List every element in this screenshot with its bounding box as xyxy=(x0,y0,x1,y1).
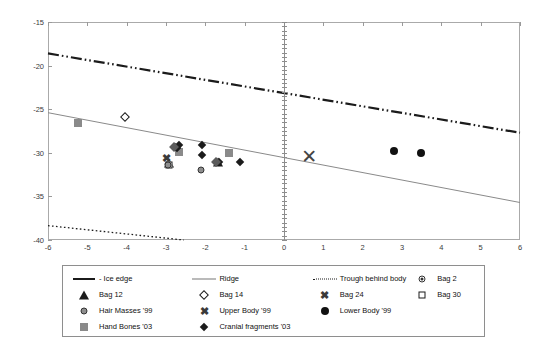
zero-axis-tick xyxy=(282,201,287,202)
legend-ice-edge-icon xyxy=(69,272,99,286)
legend-row: Hand Bones '03Cranial fragments '03 xyxy=(69,319,478,335)
x-tick-mark xyxy=(520,22,521,26)
zero-axis-tick xyxy=(282,131,287,132)
zero-axis-tick xyxy=(282,22,287,23)
zero-axis-tick xyxy=(282,26,287,27)
x-tick-label: 2 xyxy=(361,243,365,252)
zero-axis-tick xyxy=(282,223,287,224)
x-tick-mark xyxy=(48,22,49,26)
zero-axis-tick xyxy=(282,105,287,106)
legend-item[interactable]: Bag 30 xyxy=(407,287,478,303)
legend-item[interactable]: Bag 2 xyxy=(407,271,478,287)
data-point-marker xyxy=(164,162,171,169)
legend-marker-icon xyxy=(69,304,99,318)
legend-trough-icon xyxy=(310,272,340,286)
y-tick-mark xyxy=(48,240,52,241)
legend-item-empty xyxy=(407,303,478,319)
legend-label: Bag 24 xyxy=(340,290,364,300)
zero-axis-tick xyxy=(282,192,287,193)
zero-axis-tick xyxy=(282,140,287,141)
zero-axis-tick xyxy=(282,48,287,49)
x-tick-mark xyxy=(166,22,167,26)
zero-axis-tick xyxy=(282,127,287,128)
x-tick-label: 4 xyxy=(439,243,443,252)
zero-axis-tick xyxy=(282,44,287,45)
legend-item[interactable]: Lower Body '99 xyxy=(310,303,407,319)
zero-axis-tick xyxy=(282,209,287,210)
legend-label: Ridge xyxy=(219,274,239,284)
zero-axis-tick xyxy=(282,162,287,163)
zero-axis-tick xyxy=(282,236,287,237)
zero-axis-tick xyxy=(282,79,287,80)
legend-item[interactable]: Bag 12 xyxy=(69,287,189,303)
legend-item[interactable]: ✖Bag 24 xyxy=(310,287,407,303)
y-tick-mark xyxy=(48,109,52,110)
zero-axis-tick xyxy=(282,53,287,54)
x-tick-label: -1 xyxy=(241,243,248,252)
legend-item[interactable]: - Ice edge xyxy=(69,271,189,287)
x-tick-label: -3 xyxy=(163,243,170,252)
legend-marker-icon xyxy=(69,288,99,302)
x-tick-mark xyxy=(441,22,442,26)
zero-axis-tick xyxy=(282,70,287,71)
legend-label: Bag 2 xyxy=(437,274,457,284)
zero-axis-tick xyxy=(282,122,287,123)
legend-label: Lower Body '99 xyxy=(340,306,391,316)
zero-axis-tick xyxy=(282,231,287,232)
zero-axis-line xyxy=(284,22,285,240)
zero-axis-tick xyxy=(282,153,287,154)
zero-axis-tick xyxy=(282,39,287,40)
legend-label: - Ice edge xyxy=(99,274,132,284)
zero-axis-tick xyxy=(282,157,287,158)
legend-item[interactable]: Ridge xyxy=(189,271,309,287)
data-point-marker xyxy=(197,167,204,174)
legend-item[interactable]: Cranial fragments '03 xyxy=(189,319,309,335)
zero-axis-tick xyxy=(282,135,287,136)
legend-marker-icon xyxy=(189,288,219,302)
legend-row: Hair Masses '99✖Upper Body '99Lower Body… xyxy=(69,303,478,319)
y-tick-mark xyxy=(48,196,52,197)
x-tick-label: 6 xyxy=(518,243,522,252)
legend-item[interactable]: ✖Upper Body '99 xyxy=(189,303,309,319)
data-point-marker xyxy=(74,119,82,127)
data-point-marker xyxy=(390,147,398,155)
legend-item[interactable]: Trough behind body xyxy=(310,271,407,287)
data-point-marker: ✕ xyxy=(301,151,317,163)
zero-axis-tick xyxy=(282,188,287,189)
y-tick-label: -20 xyxy=(33,61,44,70)
zero-axis-tick xyxy=(282,83,287,84)
x-tick-label: 1 xyxy=(321,243,325,252)
legend-item[interactable]: Hand Bones '03 xyxy=(69,319,189,335)
x-tick-label: -2 xyxy=(202,243,209,252)
y-tick-label: -40 xyxy=(33,236,44,245)
y-tick-label: -25 xyxy=(33,105,44,114)
trend-line xyxy=(48,226,184,240)
zero-axis-tick xyxy=(282,183,287,184)
zero-axis-tick xyxy=(282,214,287,215)
legend-item[interactable]: Hair Masses '99 xyxy=(69,303,189,319)
zero-axis-tick xyxy=(282,175,287,176)
zero-axis-tick xyxy=(282,227,287,228)
zero-axis-tick xyxy=(282,57,287,58)
legend-item[interactable]: Bag 14 xyxy=(189,287,309,303)
legend-marker-icon xyxy=(310,304,340,318)
legend-marker-icon xyxy=(407,288,437,302)
legend-label: Bag 14 xyxy=(219,290,243,300)
legend-label: Hand Bones '03 xyxy=(99,322,152,332)
legend-grid: - Ice edgeRidgeTrough behind bodyBag 2Ba… xyxy=(63,266,484,336)
x-tick-mark xyxy=(127,22,128,26)
zero-axis-tick xyxy=(282,61,287,62)
y-tick-label: -35 xyxy=(33,192,44,201)
zero-axis-tick xyxy=(282,100,287,101)
legend-row: - Ice edgeRidgeTrough behind bodyBag 2 xyxy=(69,271,478,287)
zero-axis-tick xyxy=(282,96,287,97)
chart-legend: - Ice edgeRidgeTrough behind bodyBag 2Ba… xyxy=(62,265,485,337)
zero-axis-tick xyxy=(282,35,287,36)
zero-axis-tick xyxy=(282,196,287,197)
legend-empty-icon xyxy=(310,320,340,334)
x-tick-label: -6 xyxy=(45,243,52,252)
data-point-marker xyxy=(225,149,233,157)
legend-ridge-icon xyxy=(189,272,219,286)
legend-label: Hair Masses '99 xyxy=(99,306,153,316)
zero-axis-tick xyxy=(282,87,287,88)
